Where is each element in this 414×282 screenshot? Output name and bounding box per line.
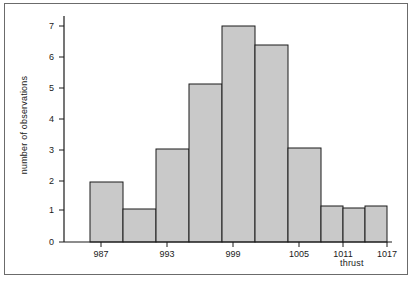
bar <box>288 148 321 242</box>
bar <box>321 206 343 242</box>
y-tick-label: 0 <box>49 237 54 247</box>
y-ticks-group <box>59 26 64 242</box>
y-axis-label: number of observations <box>19 55 29 195</box>
x-tick-label: 1017 <box>377 249 397 259</box>
x-tick-label: 1005 <box>289 249 309 259</box>
x-axis-label: thrust <box>340 258 364 268</box>
plot-area: 0 1 2 3 4 5 6 7 987 993 999 1005 1011 10… <box>0 0 414 282</box>
bar <box>365 206 387 242</box>
bar <box>189 84 222 242</box>
bar <box>156 149 189 242</box>
x-ticks-group <box>101 242 387 247</box>
bar <box>343 208 365 242</box>
bar <box>90 182 123 242</box>
y-tick-label: 7 <box>49 21 54 31</box>
y-tick-label: 2 <box>49 176 54 186</box>
y-tick-label: 5 <box>49 83 54 93</box>
y-tick-label: 1 <box>49 205 54 215</box>
y-tick-labels: 0 1 2 3 4 5 6 7 <box>49 21 54 247</box>
x-tick-label: 999 <box>225 249 240 259</box>
bar <box>255 45 288 242</box>
x-tick-label: 993 <box>159 249 174 259</box>
bar <box>123 209 156 242</box>
bars-group <box>90 26 387 242</box>
bar <box>222 26 255 242</box>
y-tick-label: 6 <box>49 52 54 62</box>
y-tick-label: 4 <box>49 114 54 124</box>
y-tick-label: 3 <box>49 145 54 155</box>
histogram-chart: 0 1 2 3 4 5 6 7 987 993 999 1005 1011 10… <box>0 0 414 282</box>
x-tick-label: 987 <box>93 249 108 259</box>
